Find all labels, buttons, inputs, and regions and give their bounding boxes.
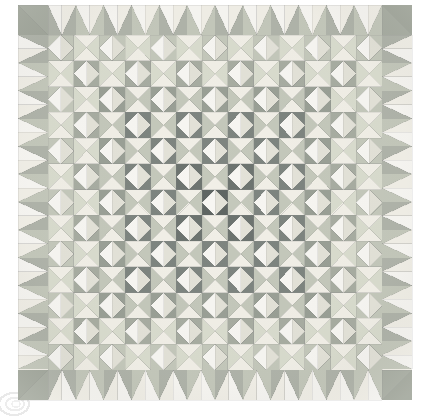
quilt-shading [18,5,412,400]
quilt-body [18,5,412,400]
quilt-canvas: Pieced patchwork quilt with flying-geese… [0,0,429,418]
quilt-image: Pieced patchwork quilt with flying-geese… [0,0,429,418]
